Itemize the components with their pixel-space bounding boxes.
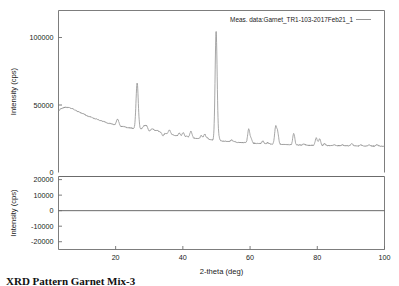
x-tick-label: 100	[379, 253, 391, 262]
x-axis-title: 2-theta (deg)	[200, 267, 244, 276]
top-y-tick-label: 50000	[34, 101, 54, 110]
top-panel-frame	[59, 11, 385, 173]
residual-y-tick-label: -20000	[31, 237, 53, 246]
residual-panel-frame	[59, 177, 385, 250]
top-y-axis-title: Intensity (cps)	[9, 67, 18, 115]
legend-entry-label: Meas. data:Garnet_TR1-103-2017Feb21_1	[230, 16, 353, 24]
residual-y-tick-label: -10000	[31, 222, 53, 231]
top-y-tick-label: 100000	[30, 33, 54, 42]
residual-y-axis-title: Intensity (cps)	[9, 189, 18, 237]
xrd-plot-svg: 204060801002-theta (deg)500001000000Inte…	[0, 0, 399, 286]
x-tick-label: 40	[179, 253, 187, 262]
residual-y-tick-label: 10000	[34, 191, 54, 200]
x-tick-label: 80	[313, 253, 321, 262]
residual-y-tick-label: 0	[50, 206, 54, 215]
measured-data-curve	[59, 31, 385, 146]
x-tick-label: 60	[246, 253, 254, 262]
figure-caption: XRD Pattern Garnet Mix-3	[6, 275, 136, 286]
residual-y-tick-label: 20000	[34, 175, 54, 184]
xrd-figure: 204060801002-theta (deg)500001000000Inte…	[0, 0, 399, 286]
x-tick-label: 20	[112, 253, 120, 262]
